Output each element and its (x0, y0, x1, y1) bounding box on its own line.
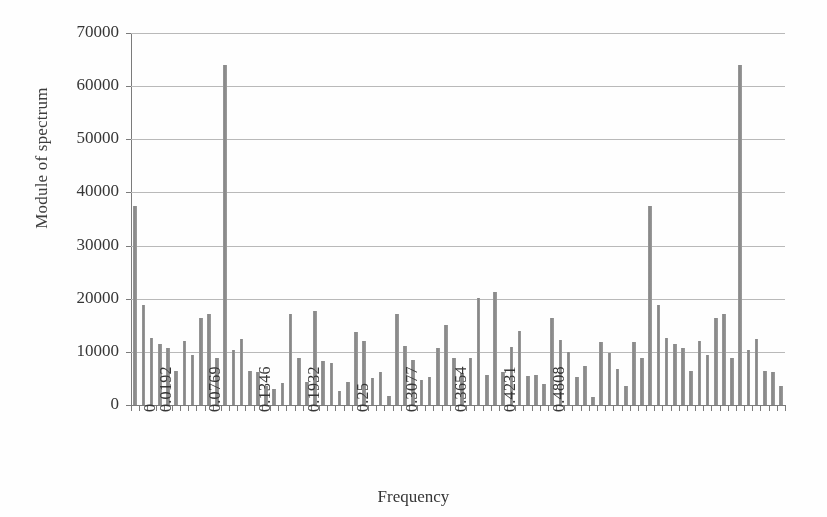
x-tick-mark (638, 405, 639, 411)
bar (387, 396, 391, 405)
bar-chart-figure: Module of spectrum 010000200003000040000… (0, 0, 827, 517)
x-tick-mark (188, 405, 189, 411)
bar (771, 372, 775, 405)
x-tick-mark (450, 405, 451, 411)
x-tick-mark (286, 405, 287, 411)
x-tick-mark (785, 405, 786, 411)
bar (542, 384, 546, 405)
bar (428, 377, 432, 405)
bar (747, 350, 751, 405)
bar (379, 372, 383, 405)
x-tick-mark (254, 405, 255, 411)
bar (191, 355, 195, 405)
y-tick-mark (126, 246, 131, 247)
x-tick-mark (491, 405, 492, 411)
bar (583, 366, 587, 405)
bar (624, 386, 628, 405)
bar (657, 305, 661, 405)
y-tick-mark (126, 192, 131, 193)
bar (199, 318, 203, 405)
bar (183, 341, 187, 405)
y-tick-label: 20000 (0, 288, 119, 308)
bar (591, 397, 595, 405)
x-tick-mark (344, 405, 345, 411)
x-tick-mark (483, 405, 484, 411)
x-tick-mark (703, 405, 704, 411)
bar (150, 338, 154, 405)
bar (240, 339, 244, 405)
y-tick-label: 10000 (0, 341, 119, 361)
bar (722, 314, 726, 405)
x-tick-mark (352, 405, 353, 411)
x-tick-label: 0.3654 (452, 366, 470, 412)
x-tick-mark (695, 405, 696, 411)
x-tick-mark (196, 405, 197, 411)
x-tick-mark (711, 405, 712, 411)
bar (599, 342, 603, 405)
y-tick-label: 70000 (0, 22, 119, 42)
x-tick-mark (548, 405, 549, 411)
bar (648, 206, 652, 405)
bar (755, 339, 759, 405)
bar (297, 358, 301, 405)
x-tick-label: 0.1346 (256, 366, 274, 412)
x-tick-mark (229, 405, 230, 411)
bar (526, 376, 530, 405)
x-tick-label: 0.4231 (501, 366, 519, 412)
x-tick-mark (401, 405, 402, 411)
x-tick-mark (572, 405, 573, 411)
x-tick-mark (393, 405, 394, 411)
x-tick-mark (532, 405, 533, 411)
bar (338, 391, 342, 405)
y-tick-label: 40000 (0, 181, 119, 201)
x-tick-mark (327, 405, 328, 411)
x-tick-label: 0.0769 (206, 366, 224, 412)
x-tick-mark (335, 405, 336, 411)
x-tick-mark (777, 405, 778, 411)
y-tick-mark (126, 33, 131, 34)
bar (608, 353, 612, 405)
x-tick-label: 0.25 (354, 383, 372, 412)
bar (485, 375, 489, 405)
x-tick-mark (630, 405, 631, 411)
bar (632, 342, 636, 405)
plot-area (131, 33, 785, 405)
x-tick-mark (581, 405, 582, 411)
x-tick-mark (295, 405, 296, 411)
bar (665, 338, 669, 405)
x-tick-mark (760, 405, 761, 411)
bar-series (131, 33, 785, 405)
bar (763, 371, 767, 405)
x-tick-mark (278, 405, 279, 411)
x-tick-mark (589, 405, 590, 411)
x-tick-label: 0.4808 (550, 366, 568, 412)
x-tick-mark (662, 405, 663, 411)
bar (477, 298, 481, 405)
x-tick-label: 0.0192 (157, 366, 175, 412)
x-tick-mark (442, 405, 443, 411)
x-tick-mark (540, 405, 541, 411)
x-tick-label: 0.1932 (305, 366, 323, 412)
bar (232, 350, 236, 405)
bar (616, 369, 620, 405)
bar (681, 348, 685, 405)
bar (142, 305, 146, 405)
bar (673, 344, 677, 405)
x-tick-mark (752, 405, 753, 411)
bar (346, 382, 350, 405)
bar (223, 65, 227, 405)
x-tick-mark (499, 405, 500, 411)
y-tick-mark (126, 405, 131, 406)
bar (395, 314, 399, 405)
x-tick-mark (654, 405, 655, 411)
bar (779, 386, 783, 405)
x-tick-mark (523, 405, 524, 411)
bar (133, 206, 137, 405)
x-tick-label: 0.3077 (403, 366, 421, 412)
bar (493, 292, 497, 405)
x-tick-mark (720, 405, 721, 411)
bar (281, 383, 285, 405)
bar (436, 348, 440, 405)
x-tick-mark (237, 405, 238, 411)
x-tick-mark (180, 405, 181, 411)
